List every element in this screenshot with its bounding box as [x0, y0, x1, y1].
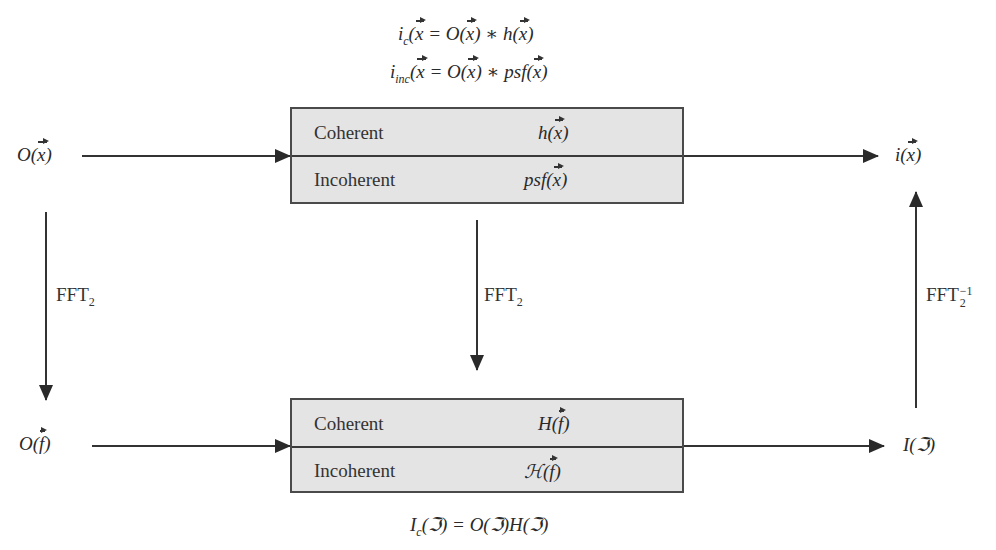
- equation-incoherent-image: iinc(x = O(x) ∗ psf(x): [390, 60, 548, 87]
- fn-name: ℋ(: [524, 461, 549, 482]
- node-fn: O(: [19, 433, 39, 454]
- box-divider: [292, 155, 682, 157]
- transform-sub: 2: [960, 297, 973, 309]
- transform-base: FFT: [484, 284, 517, 305]
- node-output-frequency: I(ℑ): [903, 433, 935, 456]
- vector-x: x: [416, 61, 424, 83]
- vector-x: x: [533, 61, 541, 83]
- box-row-fn-incoherent: ℋ(f): [524, 460, 561, 483]
- vector-x: x: [519, 23, 527, 45]
- eq-rhs: (ℑ) = O(ℑ)H(ℑ): [422, 514, 549, 535]
- fn-close: ): [563, 413, 569, 434]
- eq-part: ): [541, 61, 547, 82]
- box-row-label-coherent: Coherent: [314, 413, 384, 435]
- node-input-spatial: O(x): [17, 144, 52, 166]
- box-divider: [292, 446, 682, 448]
- eq-part: = O(: [423, 23, 465, 44]
- frequency-domain-box: Coherent H(f) Incoherent ℋ(f): [290, 398, 684, 493]
- node-close: ): [915, 144, 921, 165]
- equation-coherent-image: ic(x = O(x) ∗ h(x): [398, 22, 534, 49]
- vector-x: x: [466, 23, 474, 45]
- transform-label-middle: FFT2: [484, 284, 523, 310]
- eq-part: ) ∗ h(: [474, 23, 519, 44]
- node-fn: O(: [17, 144, 37, 165]
- eq-lhs-sub: c: [403, 34, 408, 48]
- eq-part: ) ∗ psf(: [476, 61, 533, 82]
- box-row-label-coherent: Coherent: [314, 122, 384, 144]
- transform-sub: 2: [517, 295, 523, 309]
- box-row-fn-incoherent: psf(x): [524, 169, 567, 191]
- transform-sup: −1: [960, 285, 973, 297]
- transform-base: FFT: [56, 284, 89, 305]
- node-fn: i(: [895, 144, 907, 165]
- transform-sub: 2: [89, 295, 95, 309]
- vector-x: x: [415, 23, 423, 45]
- transform-base: FFT: [926, 284, 959, 305]
- eq-lhs-sub: inc: [395, 72, 410, 86]
- vector-x: x: [467, 61, 475, 83]
- box-row-label-incoherent: Incoherent: [314, 460, 395, 482]
- box-row-fn-coherent: h(x): [538, 122, 569, 144]
- fn-close: ): [561, 169, 567, 190]
- vector-x: x: [553, 169, 561, 191]
- node-close: ): [46, 144, 52, 165]
- node-close: ): [44, 433, 50, 454]
- vector-x: x: [907, 144, 915, 166]
- fn-name: h(: [538, 122, 554, 143]
- fn-close: ): [562, 122, 568, 143]
- spatial-domain-box: Coherent h(x) Incoherent psf(x): [290, 107, 684, 204]
- vector-x: x: [554, 122, 562, 144]
- fn-close: ): [555, 461, 561, 482]
- transform-label-right: FFT−12: [926, 284, 973, 309]
- eq-part: = O(: [425, 61, 467, 82]
- box-row-label-incoherent: Incoherent: [314, 169, 395, 191]
- vector-f: f: [558, 413, 563, 435]
- equation-coherent-spectrum: Ic(ℑ) = O(ℑ)H(ℑ): [410, 513, 548, 540]
- vector-f: f: [39, 433, 44, 455]
- transform-label-left: FFT2: [56, 284, 95, 310]
- node-output-spatial: i(x): [895, 144, 921, 166]
- vector-x: x: [37, 144, 45, 166]
- fn-name: H(: [538, 413, 558, 434]
- box-row-fn-coherent: H(f): [538, 413, 570, 435]
- eq-part: ): [527, 23, 533, 44]
- fn-name: psf(: [524, 169, 553, 190]
- node-input-frequency: O(f): [19, 433, 51, 455]
- vector-f: f: [549, 461, 554, 483]
